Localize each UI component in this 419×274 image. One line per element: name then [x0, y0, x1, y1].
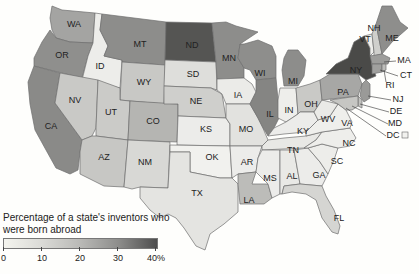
- leader-ct: [380, 70, 398, 76]
- label-va: VA: [341, 118, 352, 128]
- label-ct: CT: [400, 70, 412, 80]
- label-nc: NC: [343, 138, 356, 148]
- legend-tick-20: [79, 247, 80, 251]
- legend-title-line1: Percentage of a state's inventors who: [3, 212, 243, 224]
- label-mi: MI: [288, 76, 298, 86]
- state-ct: [372, 64, 382, 74]
- legend-title: Percentage of a state's inventors who we…: [3, 212, 243, 236]
- label-wy: WY: [137, 77, 152, 87]
- legend-tick-0: [3, 247, 4, 251]
- label-il: IL: [266, 109, 274, 119]
- label-nd: ND: [186, 40, 199, 50]
- label-ca: CA: [45, 121, 58, 131]
- legend-tick-10: [41, 247, 42, 251]
- label-ut: UT: [105, 107, 117, 117]
- label-ar: AR: [241, 157, 254, 167]
- state-fl: [282, 184, 340, 234]
- legend-tick-30: [117, 247, 118, 251]
- label-nv: NV: [69, 95, 82, 105]
- label-al: AL: [286, 171, 297, 181]
- label-tn: TN: [287, 145, 299, 155]
- label-pa: PA: [337, 87, 348, 97]
- label-ok: OK: [205, 152, 218, 162]
- label-co: CO: [146, 116, 160, 126]
- label-wi: WI: [255, 68, 266, 78]
- label-nm: NM: [138, 157, 152, 167]
- leader-de: [360, 104, 389, 112]
- label-tx: TX: [191, 188, 203, 198]
- label-ia: IA: [234, 90, 243, 100]
- label-fl: FL: [334, 213, 345, 223]
- label-id: ID: [96, 61, 106, 71]
- legend-tick-40: [155, 247, 156, 251]
- label-wa: WA: [67, 19, 81, 29]
- label-oh: OH: [304, 99, 318, 109]
- state-me: [376, 6, 408, 54]
- label-ky: KY: [297, 126, 309, 136]
- label-ne: NE: [190, 96, 203, 106]
- label-dc: DC: [387, 130, 400, 140]
- legend-tick-label-10: 10: [37, 253, 47, 263]
- label-mn: MN: [222, 53, 236, 63]
- dc-swatch: [402, 132, 408, 138]
- label-nh: NH: [368, 23, 381, 33]
- label-az: AZ: [98, 152, 110, 162]
- label-sc: SC: [331, 156, 344, 166]
- label-de: DE: [390, 106, 403, 116]
- leader-nj: [368, 96, 391, 100]
- legend-tick-label-40: 40%: [147, 253, 165, 263]
- label-la: LA: [243, 195, 254, 205]
- label-wv: WV: [321, 114, 336, 124]
- legend-tick-label-30: 30: [113, 253, 123, 263]
- label-mo: MO: [239, 124, 254, 134]
- legend-title-line2: were born abroad: [3, 224, 243, 236]
- label-or: OR: [55, 50, 69, 60]
- leader-md: [352, 106, 388, 124]
- legend-tick-label-0: 0: [1, 253, 6, 263]
- label-me: ME: [385, 33, 399, 43]
- label-sd: SD: [187, 69, 200, 79]
- label-vt: VT: [359, 34, 371, 44]
- label-md: MD: [388, 118, 402, 128]
- label-ri: RI: [386, 80, 395, 90]
- label-ms: MS: [263, 173, 277, 183]
- label-ks: KS: [200, 124, 212, 134]
- label-ny: NY: [350, 65, 363, 75]
- legend-tick-label-20: 20: [75, 253, 85, 263]
- label-in: IN: [285, 105, 294, 115]
- label-mt: MT: [134, 39, 147, 49]
- label-ma: MA: [397, 55, 411, 65]
- legend-color-scale: [3, 238, 158, 249]
- state-ma: [370, 54, 390, 64]
- label-nj: NJ: [393, 94, 404, 104]
- label-ga: GA: [312, 170, 325, 180]
